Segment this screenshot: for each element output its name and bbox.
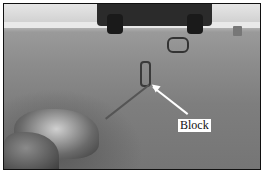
winch-cable — [105, 84, 150, 119]
block-hook — [140, 61, 151, 87]
truck-wheel-left — [107, 14, 123, 34]
truck-wheel-right — [187, 14, 203, 34]
chain — [167, 37, 189, 53]
figure-photo — [3, 3, 261, 170]
annotation-label: Block — [178, 119, 211, 132]
figure-caption — [3, 171, 263, 178]
bucket — [233, 26, 242, 36]
pointer-arrow — [152, 86, 188, 115]
